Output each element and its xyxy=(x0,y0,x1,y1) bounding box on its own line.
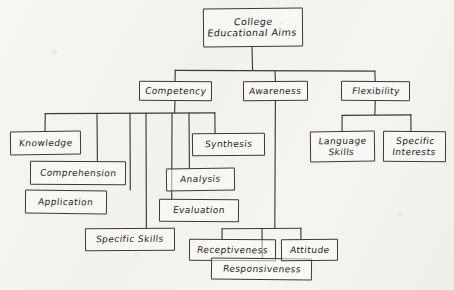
node-awareness[interactable]: Awareness xyxy=(243,81,308,101)
node-responsiveness-label: Responsiveness xyxy=(222,263,301,274)
node-comprehension[interactable]: Comprehension xyxy=(30,161,126,186)
node-application-label: Application xyxy=(38,196,95,207)
node-evaluation[interactable]: Evaluation xyxy=(159,199,239,222)
node-synthesis-label: Synthesis xyxy=(204,139,253,150)
node-specific-interests[interactable]: Specific Interests xyxy=(383,131,446,162)
node-evaluation-label: Evaluation xyxy=(172,205,225,216)
node-root-label: College Educational Aims xyxy=(207,16,299,39)
node-comprehension-label: Comprehension xyxy=(39,167,117,178)
node-attitude-label: Attitude xyxy=(289,245,330,256)
node-language-skills-label: Language Skills xyxy=(317,136,367,158)
node-specific-skills[interactable]: Specific Skills xyxy=(85,228,175,252)
node-knowledge[interactable]: Knowledge xyxy=(10,131,81,156)
connector-root-stem xyxy=(252,47,253,71)
connector-flexibility-bus xyxy=(342,115,411,116)
node-awareness-label: Awareness xyxy=(249,86,303,97)
node-competency[interactable]: Competency xyxy=(139,81,212,102)
node-language-skills[interactable]: Language Skills xyxy=(310,131,375,163)
node-analysis-label: Analysis xyxy=(180,174,222,185)
diagram-canvas: College Educational Aims Competency Awar… xyxy=(0,0,454,290)
node-synthesis[interactable]: Synthesis xyxy=(192,133,265,157)
node-attitude[interactable]: Attitude xyxy=(281,239,338,261)
node-flexibility[interactable]: Flexibility xyxy=(341,81,410,101)
node-knowledge-label: Knowledge xyxy=(18,137,73,148)
node-specific-interests-label: Specific Interests xyxy=(391,136,437,157)
node-flexibility-label: Flexibility xyxy=(351,86,400,97)
node-competency-label: Competency xyxy=(144,85,207,96)
connector-awareness-stem xyxy=(275,101,276,229)
node-analysis[interactable]: Analysis xyxy=(166,168,235,192)
node-specific-skills-label: Specific Skills xyxy=(95,234,164,245)
node-root[interactable]: College Educational Aims xyxy=(203,8,303,48)
node-application[interactable]: Application xyxy=(25,190,107,215)
node-receptiveness-label: Receptiveness xyxy=(196,244,268,255)
